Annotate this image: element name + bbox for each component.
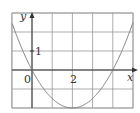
x-axis-label: x	[127, 71, 134, 84]
parabola-chart: y x 0 2 1	[0, 0, 140, 113]
grid-lines	[12, 13, 133, 108]
axes	[12, 12, 138, 108]
y-axis-label: y	[19, 10, 27, 23]
y-tick-label-1: 1	[35, 45, 42, 58]
x-tick-label-2: 2	[70, 73, 77, 86]
origin-label: 0	[24, 73, 31, 86]
